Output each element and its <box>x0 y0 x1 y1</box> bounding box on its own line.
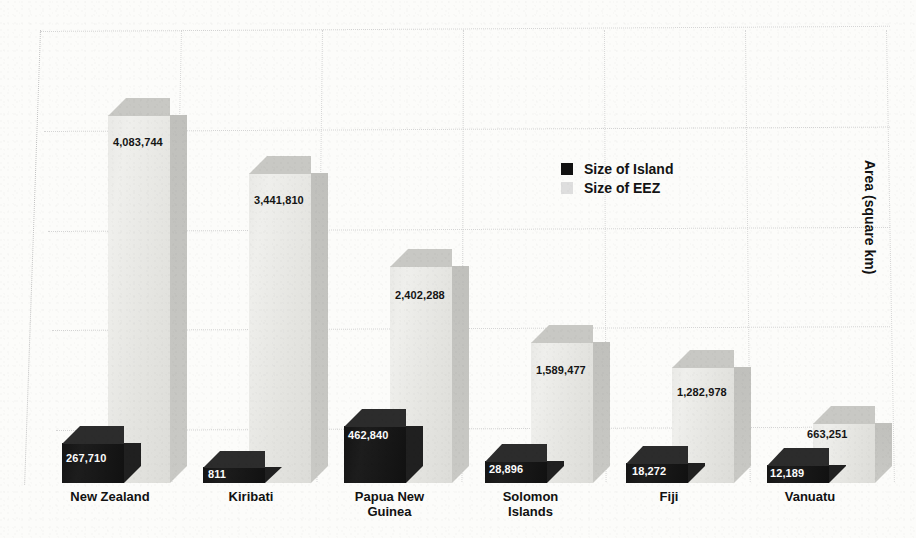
value-label-island: 267,710 <box>66 452 106 464</box>
value-label-eez: 4,083,744 <box>113 136 163 148</box>
value-label-eez: 1,589,477 <box>536 364 586 376</box>
bar-face-top <box>203 451 265 468</box>
value-label-island: 28,896 <box>489 463 523 475</box>
value-label-island: 12,189 <box>770 467 804 479</box>
bar-face-top <box>108 98 170 116</box>
category-label: Solomon Islands <box>463 489 598 519</box>
bar-face-top <box>485 444 547 462</box>
bar-face-side <box>593 342 610 483</box>
bars-area: 4,083,744 267,710 New Zealand 3,441,810 … <box>0 0 916 538</box>
bar-face-top <box>62 426 124 444</box>
legend: Size of Island Size of EEZ <box>561 159 673 197</box>
grey-square-icon <box>561 182 573 194</box>
value-label-island: 462,840 <box>348 429 388 441</box>
legend-item-size-of-eez[interactable]: Size of EEZ <box>561 178 673 197</box>
black-square-icon <box>561 163 573 175</box>
value-label-island: 18,272 <box>632 465 666 477</box>
category-label: Vanuatu <box>745 489 875 504</box>
bar-face-top <box>767 448 829 466</box>
bar-face-side <box>734 367 751 483</box>
bar-face-side <box>170 115 187 483</box>
value-label-eez: 1,282,978 <box>677 386 727 398</box>
chart-canvas: 4,083,744 267,710 New Zealand 3,441,810 … <box>0 0 916 538</box>
value-label-eez: 3,441,810 <box>254 194 304 206</box>
bar-face-top <box>672 350 734 368</box>
bar-face-top <box>390 249 452 267</box>
legend-label: Size of Island <box>584 161 673 177</box>
value-label-eez: 663,251 <box>807 428 847 440</box>
bar-face-side <box>875 423 892 483</box>
category-label: Kiribati <box>186 489 316 504</box>
legend-label: Size of EEZ <box>584 180 660 196</box>
category-label: New Zealand <box>45 489 175 504</box>
category-label: Fiji <box>604 489 734 504</box>
legend-item-size-of-island[interactable]: Size of Island <box>561 159 673 178</box>
bar-face-top <box>626 446 688 464</box>
bar-eez-kiribati[interactable] <box>249 173 311 483</box>
value-label-eez: 2,402,288 <box>395 289 445 301</box>
bar-face-side <box>452 266 469 483</box>
bar-face-side <box>311 173 328 483</box>
bar-face-front <box>249 173 311 483</box>
bar-face-top <box>344 409 406 427</box>
y-axis-title: Area (square km) <box>862 160 878 274</box>
bar-face-top <box>249 156 311 174</box>
bar-face-top <box>813 406 875 424</box>
value-label-island: 811 <box>208 468 226 480</box>
bar-face-top <box>531 325 593 343</box>
category-label: Papua New Guinea <box>322 489 457 519</box>
